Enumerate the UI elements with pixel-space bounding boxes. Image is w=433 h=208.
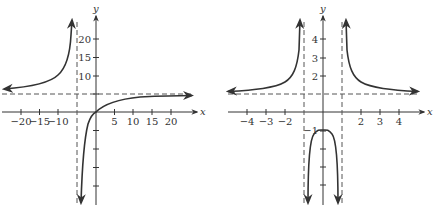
svg-text:2: 2 — [312, 71, 318, 82]
left-graph: x y −20 −15 −10 5 10 15 20 — [2, 3, 206, 205]
x-axis-label: x — [427, 106, 433, 117]
svg-text:−1: −1 — [303, 125, 318, 136]
svg-text:3: 3 — [377, 116, 383, 127]
y-tick-labels: 10 15 20 — [78, 34, 91, 82]
y-axis-label: y — [92, 3, 99, 14]
svg-text:20: 20 — [165, 116, 178, 127]
svg-text:2: 2 — [358, 116, 364, 127]
svg-text:−4: −4 — [240, 116, 255, 127]
svg-text:10: 10 — [78, 71, 91, 82]
svg-text:−2: −2 — [278, 116, 293, 127]
figure: x y −20 −15 −10 5 10 15 20 — [0, 0, 433, 208]
svg-text:3: 3 — [312, 53, 318, 64]
svg-text:5: 5 — [111, 116, 117, 127]
left-branch-curve — [228, 20, 300, 92]
svg-text:4: 4 — [312, 34, 318, 45]
svg-text:−3: −3 — [259, 116, 274, 127]
svg-text:10: 10 — [127, 116, 140, 127]
y-tick-labels: 4 3 2 −1 — [303, 34, 318, 136]
svg-text:20: 20 — [78, 34, 91, 45]
left-branch-curve — [4, 20, 72, 89]
svg-text:4: 4 — [396, 116, 402, 127]
y-axis-label: y — [319, 3, 326, 14]
right-graph: x y −4 −3 −2 2 3 4 — [228, 3, 433, 205]
svg-text:15: 15 — [78, 52, 91, 63]
x-axis-label: x — [200, 106, 206, 117]
x-tick-labels: −4 −3 −2 2 3 4 — [240, 116, 403, 127]
right-branch-curve — [346, 20, 418, 92]
svg-text:−10: −10 — [47, 116, 68, 127]
svg-text:15: 15 — [146, 116, 159, 127]
x-tick-labels: −20 −15 −10 5 10 15 20 — [10, 116, 177, 127]
